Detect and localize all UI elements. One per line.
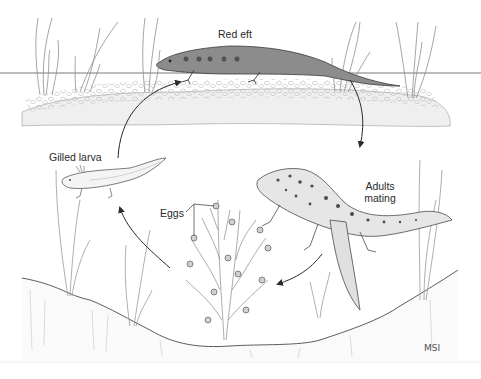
- egg-plant: [186, 200, 271, 340]
- label-adults-line1: Adults: [358, 180, 402, 192]
- life-cycle-diagram: Red eft Adults mating Eggs Gilled larva …: [0, 0, 481, 379]
- label-eggs: Eggs: [160, 207, 184, 219]
- gilled-larva: [62, 158, 166, 198]
- artist-signature: MSI: [424, 343, 440, 353]
- adult-newts: [257, 168, 452, 310]
- label-adults-line2: mating: [358, 192, 402, 204]
- eggs-callout-line: [186, 204, 214, 236]
- pond-bottom: [22, 270, 458, 360]
- label-gilled-larva: Gilled larva: [49, 151, 102, 163]
- label-red-eft: Red eft: [218, 28, 252, 40]
- label-adults-mating: Adults mating: [358, 180, 402, 204]
- arrow-adults-to-eggs: [278, 254, 322, 284]
- illustration: [0, 0, 481, 379]
